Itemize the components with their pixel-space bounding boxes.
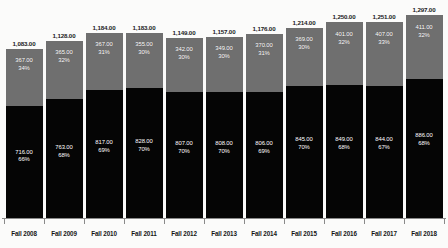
category-label-fall-2017: Fall 2017 (366, 230, 403, 237)
bar-segment-lower[interactable]: 849.0068% (326, 85, 363, 218)
bar-column[interactable]: 1,214.00369.0030%845.0070% (286, 4, 323, 218)
bar-segment-upper-percent: 33% (366, 39, 403, 47)
category-label-fall-2016: Fall 2016 (326, 230, 363, 237)
bar-segment-upper-percent: 30% (166, 54, 203, 62)
bar-segment-lower[interactable]: 716.0066% (6, 106, 43, 218)
bar-segment-upper-label: 367.0034% (6, 57, 43, 73)
bar-segment-lower-value: 817.00 (86, 139, 123, 147)
bar-segment-upper-percent: 31% (246, 50, 283, 58)
bar-segment-lower[interactable]: 807.0070% (166, 92, 203, 218)
axis-tick (244, 219, 245, 224)
axis-tick (44, 219, 45, 224)
axis-tick (444, 219, 445, 224)
bar-segment-upper[interactable]: 370.0031% (246, 34, 283, 92)
bar-segment-upper-value: 369.00 (286, 36, 323, 44)
axis-tick (404, 219, 405, 224)
bar-segment-upper[interactable]: 367.0034% (6, 49, 43, 106)
bar-column[interactable]: 1,297.00411.0032%886.0068% (406, 4, 443, 218)
bar-column[interactable]: 1,157.00349.0030%808.0070% (206, 4, 243, 218)
bar-segment-upper-label: 411.0032% (406, 24, 443, 40)
bar-segment-upper-value: 367.00 (6, 57, 43, 65)
bar-segment-lower-value: 849.00 (326, 136, 363, 144)
bar-segment-lower-label: 817.0069% (86, 139, 123, 155)
bar-segment-upper[interactable]: 407.0033% (366, 22, 403, 86)
category-label-fall-2013: Fall 2013 (206, 230, 243, 237)
bar-segment-upper[interactable]: 369.0030% (286, 28, 323, 86)
bar-column[interactable]: 1,176.00370.0031%806.0069% (246, 4, 283, 218)
bar-segment-upper-percent: 32% (326, 39, 363, 47)
bar-segment-upper-value: 342.00 (166, 46, 203, 54)
bar-segment-lower-percent: 70% (166, 148, 203, 156)
bar-segment-lower[interactable]: 817.0069% (86, 90, 123, 218)
bar-segment-lower-label: 845.0070% (286, 136, 323, 152)
bar-segment-lower-label: 828.0070% (126, 138, 163, 154)
bar-segment-lower[interactable]: 806.0069% (246, 92, 283, 218)
bar-segment-lower[interactable]: 844.0067% (366, 86, 403, 218)
bar-segment-upper-label: 369.0030% (286, 36, 323, 52)
bar-segment-lower[interactable]: 808.0070% (206, 92, 243, 218)
bar-segment-upper-value: 370.00 (246, 42, 283, 50)
bar-segment-upper-percent: 34% (6, 65, 43, 73)
bar-segment-lower-value: 828.00 (126, 138, 163, 146)
bar-column[interactable]: 1,184.00367.0031%817.0069% (86, 4, 123, 218)
category-label-fall-2008: Fall 2008 (6, 230, 43, 237)
bar-segment-lower-label: 716.0066% (6, 149, 43, 165)
bar-segment-upper-value: 401.00 (326, 31, 363, 39)
bar-segment-upper-label: 349.0030% (206, 45, 243, 61)
bar-segment-upper-percent: 32% (406, 32, 443, 40)
bar-segment-lower-label: 806.0069% (246, 140, 283, 156)
bar-segment-lower-value: 807.00 (166, 140, 203, 148)
bar-segment-upper[interactable]: 349.0030% (206, 37, 243, 92)
bar-column[interactable]: 1,083.00367.0034%716.0066% (6, 4, 43, 218)
bar-segment-upper[interactable]: 365.0032% (46, 41, 83, 98)
bar-segment-upper[interactable]: 342.0030% (166, 38, 203, 92)
bar-segment-upper[interactable]: 355.0030% (126, 33, 163, 89)
bar-segment-upper[interactable]: 411.0032% (406, 15, 443, 79)
bar-segment-lower[interactable]: 845.0070% (286, 86, 323, 218)
bar-segment-upper-value: 407.00 (366, 31, 403, 39)
bar-segment-lower-percent: 69% (246, 148, 283, 156)
bar-segment-lower-percent: 69% (86, 147, 123, 155)
category-label-fall-2010: Fall 2010 (86, 230, 123, 237)
bar-segment-upper-percent: 30% (286, 44, 323, 52)
bar-segment-lower[interactable]: 828.0070% (126, 88, 163, 218)
bar-segment-lower-label: 808.0070% (206, 140, 243, 156)
bar-segment-lower-percent: 66% (6, 156, 43, 164)
bar-segment-upper-label: 365.0032% (46, 49, 83, 65)
bar-segment-lower-percent: 70% (286, 144, 323, 152)
bar-segment-lower-label: 763.0068% (46, 144, 83, 160)
bar-segment-lower-label: 844.0067% (366, 136, 403, 152)
axis-tick (284, 219, 285, 224)
bar-segment-lower-percent: 70% (206, 148, 243, 156)
category-label-fall-2014: Fall 2014 (246, 230, 283, 237)
bar-segment-lower-percent: 68% (46, 152, 83, 160)
bar-segment-upper-value: 349.00 (206, 45, 243, 53)
bar-segment-upper-value: 411.00 (406, 24, 443, 32)
bar-segment-upper-percent: 32% (46, 57, 83, 65)
category-label-fall-2009: Fall 2009 (46, 230, 83, 237)
axis-tick (84, 219, 85, 224)
bar-segment-upper[interactable]: 367.0031% (86, 33, 123, 90)
bar-segment-lower-label: 807.0070% (166, 140, 203, 156)
bar-segment-upper-percent: 31% (86, 49, 123, 57)
stacked-bar-chart: 1,083.00367.0034%716.0066%1,128.00365.00… (0, 0, 448, 248)
bar-column[interactable]: 1,128.00365.0032%763.0068% (46, 4, 83, 218)
bar-segment-lower-percent: 67% (366, 144, 403, 152)
bar-column[interactable]: 1,251.00407.0033%844.0067% (366, 4, 403, 218)
bar-column[interactable]: 1,149.00342.0030%807.0070% (166, 4, 203, 218)
bar-segment-lower-label: 886.0068% (406, 132, 443, 148)
bar-total-label: 1,297.00 (400, 6, 448, 13)
bar-segment-upper[interactable]: 401.0032% (326, 22, 363, 85)
bar-segment-upper-percent: 30% (206, 53, 243, 61)
category-axis: Fall 2008Fall 2009Fall 2010Fall 2011Fall… (4, 224, 444, 242)
axis-tick (164, 219, 165, 224)
bar-segment-lower-value: 806.00 (246, 140, 283, 148)
bar-segment-lower[interactable]: 886.0068% (406, 79, 443, 218)
bar-total-label: 1,128.00 (40, 32, 89, 39)
bar-column[interactable]: 1,250.00401.0032%849.0068% (326, 4, 363, 218)
bar-column[interactable]: 1,183.00355.0030%828.0070% (126, 4, 163, 218)
bar-segment-lower-value: 844.00 (366, 136, 403, 144)
bar-total-label: 1,176.00 (240, 25, 289, 32)
bar-segment-lower[interactable]: 763.0068% (46, 99, 83, 218)
plot-area: 1,083.00367.0034%716.0066%1,128.00365.00… (4, 4, 444, 218)
